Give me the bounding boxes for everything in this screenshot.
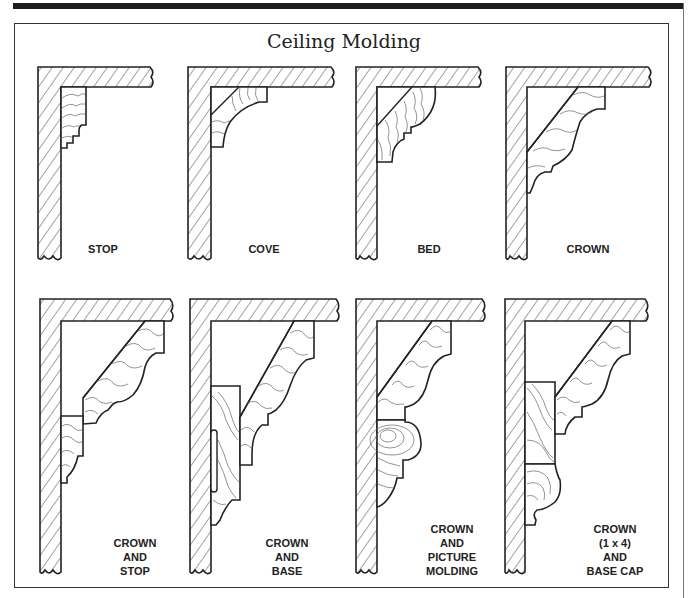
panel-crown-and-base [190, 299, 339, 574]
label-cove: COVE [209, 242, 319, 256]
label-line: AND [397, 536, 507, 550]
label-crown-and-picture-molding: CROWN AND PICTURE MOLDING [397, 522, 507, 578]
crown-molding [83, 321, 164, 424]
base-groove [211, 430, 217, 492]
label-stop: STOP [48, 242, 158, 256]
crown-molding [240, 321, 314, 465]
label-line: (1 x 4) [560, 536, 670, 550]
label-line: AND [80, 550, 190, 564]
label-crown-1x4-and-base-cap: CROWN (1 x 4) AND BASE CAP [560, 522, 670, 578]
label-line: CROWN [80, 536, 190, 550]
label-line: CROWN [397, 522, 507, 536]
label-line: CROWN [232, 536, 342, 550]
label-crown: CROWN [533, 242, 643, 256]
molding-diagrams [0, 0, 688, 598]
label-bed: BED [374, 242, 484, 256]
crown-molding [377, 321, 451, 420]
label-line: AND [560, 550, 670, 564]
panel-stop [38, 67, 153, 260]
label-line: PICTURE [397, 550, 507, 564]
panel-cove [188, 67, 334, 260]
label-line: CROWN [560, 522, 670, 536]
picture-molding [377, 420, 421, 507]
label-line: MOLDING [397, 564, 507, 578]
panel-crown [506, 67, 651, 260]
panel-crown-and-stop [40, 299, 173, 574]
label-line: AND [232, 550, 342, 564]
label-crown-and-base: CROWN AND BASE [232, 536, 342, 578]
label-line: BASE [232, 564, 342, 578]
panel-bed [356, 67, 481, 260]
crown-molding [555, 321, 630, 434]
label-line: BASE CAP [560, 564, 670, 578]
wall-ceiling-section [38, 67, 153, 260]
label-line: STOP [80, 564, 190, 578]
cove-molding [211, 87, 267, 147]
label-crown-and-stop: CROWN AND STOP [80, 536, 190, 578]
bed-molding [377, 87, 435, 162]
